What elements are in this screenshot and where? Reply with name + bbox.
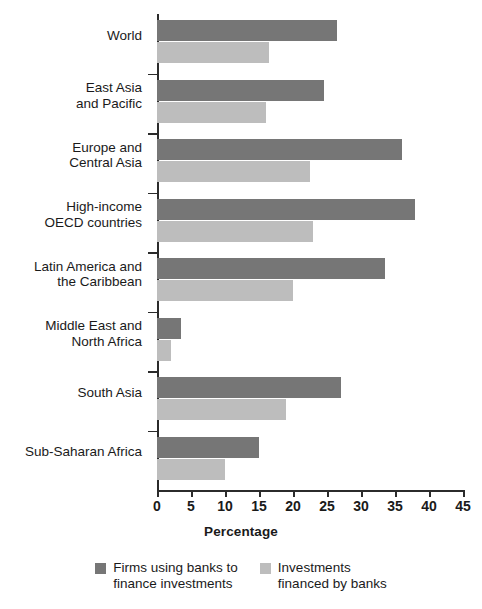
x-axis-tick (429, 490, 431, 497)
bar-series-firms (157, 139, 402, 160)
bar-series-firms (157, 20, 337, 41)
category-label: Sub-Saharan Africa (0, 445, 142, 461)
x-axis-tick (157, 490, 159, 497)
chart-legend: Firms using banks to finance investments… (0, 560, 482, 608)
x-axis-tick (191, 490, 193, 497)
bar-group (157, 193, 463, 253)
bar-series-firms (157, 258, 385, 279)
bar-series-firms (157, 199, 415, 220)
x-axis-tick (395, 490, 397, 497)
y-axis-tick (148, 74, 157, 76)
bar-group (157, 252, 463, 312)
category-label: World (0, 28, 142, 44)
bar-group (157, 14, 463, 74)
bar-group (157, 431, 463, 491)
legend-item-firms: Firms using banks to finance investments (95, 560, 238, 608)
x-axis-tick-label: 0 (142, 498, 172, 514)
bar-series-investments (157, 280, 293, 301)
y-axis-tick (148, 193, 157, 195)
bar-group (157, 74, 463, 134)
bar-series-investments (157, 340, 171, 361)
category-label: East Asia and Pacific (0, 80, 142, 111)
plot-area (157, 14, 463, 490)
x-axis-tick-label: 25 (312, 498, 342, 514)
x-axis-tick-label: 20 (278, 498, 308, 514)
y-axis-tick (148, 312, 157, 314)
x-axis-tick (361, 490, 363, 497)
category-label: Middle East and North Africa (0, 318, 142, 349)
legend-swatch-icon (260, 563, 271, 574)
bar-series-investments (157, 221, 313, 242)
bar-group (157, 133, 463, 193)
x-axis-tick-label: 5 (176, 498, 206, 514)
x-axis-tick-label: 40 (414, 498, 444, 514)
category-label: South Asia (0, 385, 142, 401)
x-axis-tick (259, 490, 261, 497)
y-axis-tick (148, 252, 157, 254)
category-label: High-income OECD countries (0, 199, 142, 230)
bar-series-investments (157, 459, 225, 480)
x-axis-tick (293, 490, 295, 497)
bar-group (157, 371, 463, 431)
bar-series-firms (157, 318, 181, 339)
y-axis-tick (148, 431, 157, 433)
legend-swatch-icon (95, 563, 106, 574)
category-label: Latin America and the Caribbean (0, 258, 142, 289)
x-axis-tick-label: 45 (448, 498, 478, 514)
legend-label: Investments financed by banks (278, 560, 387, 592)
bar-series-investments (157, 161, 310, 182)
bar-series-investments (157, 102, 266, 123)
bar-series-firms (157, 437, 259, 458)
legend-item-investments: Investments financed by banks (260, 560, 387, 608)
x-axis-ticks: 051015202530354045 (157, 490, 467, 520)
x-axis-title: Percentage (0, 524, 482, 539)
x-axis-tick-label: 35 (380, 498, 410, 514)
x-axis-tick-label: 30 (346, 498, 376, 514)
x-axis-tick (225, 490, 227, 497)
bar-rows (157, 14, 463, 490)
x-axis-tick-label: 10 (210, 498, 240, 514)
bar-series-investments (157, 399, 286, 420)
x-axis-tick-label: 15 (244, 498, 274, 514)
category-label: Europe and Central Asia (0, 139, 142, 170)
x-axis-tick (327, 490, 329, 497)
legend-label: Firms using banks to finance investments (113, 560, 238, 592)
category-axis-labels: World East Asia and Pacific Europe and C… (0, 14, 150, 490)
bar-chart: World East Asia and Pacific Europe and C… (0, 0, 482, 609)
bar-group (157, 312, 463, 372)
x-axis-tick (463, 490, 465, 497)
y-axis-tick (148, 371, 157, 373)
bar-series-firms (157, 80, 324, 101)
y-axis-tick (148, 133, 157, 135)
bar-series-investments (157, 42, 269, 63)
bar-series-firms (157, 377, 341, 398)
